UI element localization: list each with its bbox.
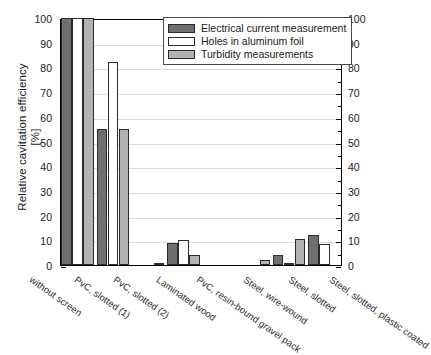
legend-label: Electrical current measurement xyxy=(201,23,346,34)
bar-group xyxy=(132,20,167,265)
y-axis-tick-label: 90 xyxy=(348,38,378,50)
legend-label: Holes in aluminum foil xyxy=(201,36,304,47)
legend-swatch-icon xyxy=(168,37,195,46)
bar-group xyxy=(96,20,131,265)
bar xyxy=(97,129,108,265)
x-axis-labels: without screenPvC, slotted (1)PvC, slott… xyxy=(0,266,390,348)
legend-item: Electrical current measurement xyxy=(168,22,346,34)
bar xyxy=(154,263,165,265)
bar xyxy=(178,240,189,265)
bar xyxy=(295,239,306,265)
y-axis-tick-label: 30 xyxy=(348,186,378,198)
bar xyxy=(61,18,72,265)
bar xyxy=(167,243,178,265)
y-axis-tick-label: 100 xyxy=(348,13,378,25)
y-axis-tick-label: 10 xyxy=(22,235,52,247)
y-axis-tick-label: 40 xyxy=(22,161,52,173)
legend-item: Turbidity measurements xyxy=(168,48,346,60)
y-axis-tick-label: 80 xyxy=(22,62,52,74)
y-axis-tick-label: 50 xyxy=(22,137,52,149)
bar xyxy=(119,129,130,265)
bar-group xyxy=(61,20,96,265)
bar xyxy=(308,235,319,265)
y-axis-tick-label: 100 xyxy=(22,13,52,25)
y-axis-tick-label: 20 xyxy=(22,211,52,223)
bar xyxy=(83,18,94,265)
y-axis-tick-label: 20 xyxy=(348,211,378,223)
legend-label: Turbidity measurements xyxy=(201,49,313,60)
bar xyxy=(108,62,119,265)
y-axis-tick-label: 80 xyxy=(348,62,378,74)
legend: Electrical current measurement Holes in … xyxy=(163,17,352,65)
bar xyxy=(72,18,83,265)
y-axis-tick-label: 70 xyxy=(348,87,378,99)
bar xyxy=(319,244,330,265)
y-axis-tick-label: 10 xyxy=(348,235,378,247)
bar xyxy=(189,255,200,265)
y-axis-tick-label: 40 xyxy=(348,161,378,173)
y-axis-tick-label: 30 xyxy=(22,186,52,198)
bar xyxy=(273,255,284,265)
legend-swatch-icon xyxy=(168,24,195,33)
y-axis-tick-label: 70 xyxy=(22,87,52,99)
legend-swatch-icon xyxy=(168,50,195,59)
y-axis-tick-label: 60 xyxy=(348,112,378,124)
y-axis-tick-label: 90 xyxy=(22,38,52,50)
bar xyxy=(284,263,295,265)
legend-item: Holes in aluminum foil xyxy=(168,35,346,47)
bar xyxy=(260,260,271,265)
x-axis-tick-label: Steel, slotted, plastic coated xyxy=(328,274,431,351)
y-axis-tick-label: 50 xyxy=(348,137,378,149)
y-axis-tick-label: 60 xyxy=(22,112,52,124)
